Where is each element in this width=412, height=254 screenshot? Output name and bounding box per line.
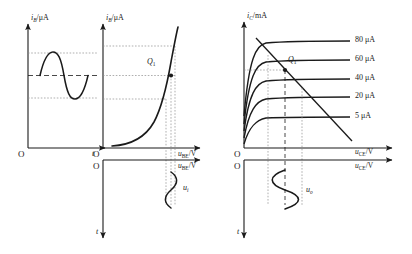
output-characteristic-origin-label: O <box>234 150 241 159</box>
output-voltage-axes <box>244 160 392 238</box>
figure-canvas: iB/μA O t iB/μA O uBE/V Q1 uBE/V O t ui … <box>0 0 412 254</box>
figure-vector <box>0 0 412 254</box>
input-signal-label: ui <box>183 184 189 192</box>
q-point-marker-output <box>283 68 287 72</box>
ic-curve-60ua <box>244 60 350 124</box>
q-point-label-input: Q1 <box>147 58 155 66</box>
input-characteristic-y-axis-label: iB/μA <box>106 14 124 22</box>
curve-label-80ua: 80 μA <box>355 36 375 44</box>
input-characteristic-curve <box>112 27 178 146</box>
curve-label-40ua: 40 μA <box>355 74 375 82</box>
dc-load-line <box>256 38 352 141</box>
output-characteristic-x-axis-label: uCE/V <box>355 148 373 156</box>
curve-label-5ua: 5 μA <box>355 112 371 120</box>
left-waveform-origin-label: O <box>18 150 25 159</box>
input-characteristic-origin-label: O <box>93 150 100 159</box>
curve-label-60ua: 60 μA <box>355 55 375 63</box>
output-characteristic-y-axis-label: iC/mA <box>247 12 267 20</box>
input-voltage-origin-label: O <box>93 162 100 171</box>
input-characteristic-x-axis-label: uBE/V <box>178 150 196 158</box>
output-voltage-origin-label: O <box>234 162 241 171</box>
ic-curve-40ua <box>244 79 350 131</box>
output-signal-label: uo <box>306 186 313 194</box>
input-characteristic-gridlines <box>103 46 175 205</box>
output-voltage-x-axis-label: uCE/V <box>355 162 373 170</box>
q-point-marker-input <box>169 73 173 77</box>
output-characteristic-curves <box>244 41 350 144</box>
input-characteristic-axes <box>103 24 200 148</box>
input-voltage-y-axis-label: t <box>96 228 98 236</box>
input-voltage-x-axis-label: uBE/V <box>178 162 196 170</box>
output-voltage-y-axis-label: t <box>237 228 239 236</box>
q-point-label-output: Q1 <box>288 56 296 64</box>
curve-label-20ua: 20 μA <box>355 92 375 100</box>
input-voltage-axes <box>103 160 200 238</box>
left-waveform-y-axis-label: iB/μA <box>31 14 49 22</box>
